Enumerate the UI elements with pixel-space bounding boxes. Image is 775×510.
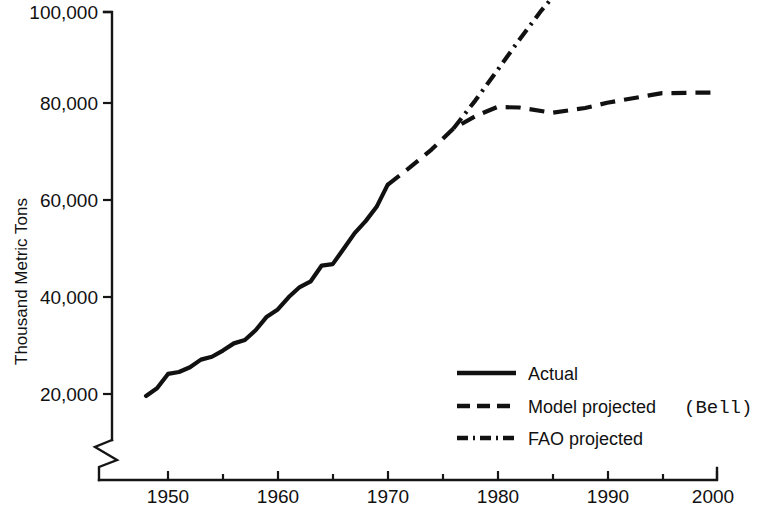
series-line-model-projected (388, 93, 717, 185)
legend: Actual Model projected (Bell) FAO projec… (457, 364, 752, 449)
y-tick-label-20000: 20,000 (40, 384, 98, 405)
x-axis (99, 468, 717, 480)
y-axis-title: Thousand Metric Tons (12, 198, 31, 365)
legend-label-fao-projected: FAO projected (528, 429, 643, 449)
x-tick-label-1980: 1980 (477, 486, 519, 507)
y-tick-label-60000: 60,000 (40, 190, 98, 211)
y-axis-tick-labels: 100,000 80,000 60,000 40,000 20,000 (29, 2, 98, 405)
x-tick-label-1960: 1960 (257, 486, 299, 507)
y-tick-label-100000: 100,000 (29, 2, 98, 23)
series-line-actual (146, 185, 388, 396)
legend-label-actual: Actual (528, 364, 578, 384)
x-axis-tick-labels: 1950 1960 1970 1980 1990 2000 (147, 486, 734, 507)
legend-note-bell: (Bell) (684, 397, 752, 419)
series-group (146, 0, 717, 396)
y-axis-spine (104, 12, 112, 440)
y-axis-break-zigzag (95, 440, 117, 480)
y-axis (95, 12, 117, 480)
x-tick-label-1970: 1970 (367, 486, 409, 507)
x-axis-spine (99, 468, 717, 480)
y-tick-label-80000: 80,000 (40, 93, 98, 114)
x-tick-label-1950: 1950 (147, 486, 189, 507)
x-tick-label-1990: 1990 (587, 486, 629, 507)
y-axis-ticks (103, 12, 112, 394)
chart-figure: 100,000 80,000 60,000 40,000 20,000 Thou… (0, 0, 775, 510)
legend-label-model-projected: Model projected (528, 397, 656, 417)
x-tick-label-2000: 2000 (692, 486, 734, 507)
y-tick-label-40000: 40,000 (40, 287, 98, 308)
line-chart: 100,000 80,000 60,000 40,000 20,000 Thou… (0, 0, 775, 510)
